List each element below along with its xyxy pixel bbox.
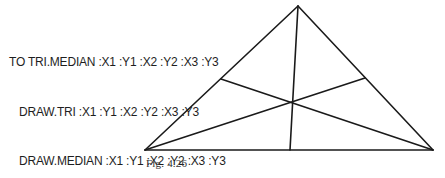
- triangle-side-left: [145, 6, 298, 150]
- median-from-bottom-left: [145, 78, 365, 150]
- figure-caption: Fig. 4.26: [146, 157, 187, 169]
- median-from-top: [290, 6, 298, 150]
- triangle-medians-figure: [0, 0, 445, 178]
